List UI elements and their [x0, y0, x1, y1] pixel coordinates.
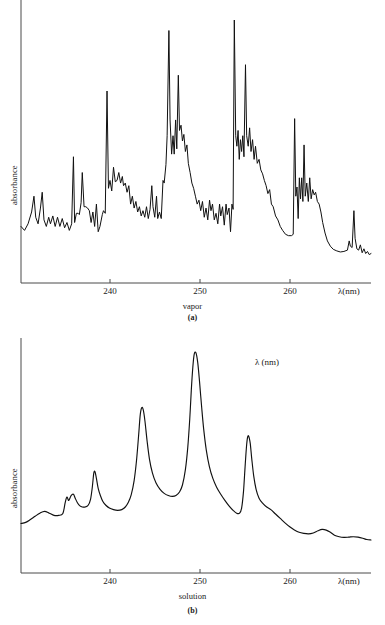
x-axis-label-b: λ(nm) — [338, 576, 360, 586]
x-axis-label-a: λ(nm) — [338, 286, 360, 296]
figure-panel-b: absorbance λ (nm) 240 250 260 λ(nm) solu… — [0, 318, 385, 625]
vapor-spectrum-chart — [0, 0, 385, 300]
panel-caption-b: (b) — [0, 606, 385, 615]
solution-spectrum-curve — [21, 352, 371, 540]
x-tick-label-a-250: 250 — [186, 286, 214, 296]
x-tick-label-a-240: 240 — [96, 286, 124, 296]
lambda-nm-annotation: λ (nm) — [255, 357, 279, 367]
x-tick-label-a-260: 260 — [276, 286, 304, 296]
panel-subcaption-a: vapor — [0, 301, 385, 311]
plot-area-solution: absorbance λ (nm) 240 250 260 λ(nm) solu… — [0, 318, 385, 590]
x-tick-label-b-260: 260 — [276, 576, 304, 586]
x-axis-ticks-b — [110, 569, 290, 573]
y-axis-label-b: absorbance — [9, 468, 19, 508]
x-tick-label-b-250: 250 — [186, 576, 214, 586]
x-tick-label-b-240: 240 — [96, 576, 124, 586]
figure-panel-a: absorbance 240 250 260 λ(nm) vapor (a) — [0, 0, 385, 318]
vapor-spectrum-curve — [21, 20, 371, 255]
plot-area-vapor: absorbance 240 250 260 λ(nm) vapor — [0, 0, 385, 300]
solution-spectrum-chart — [0, 318, 385, 590]
y-axis-label-a: absorbance — [9, 165, 19, 205]
x-axis-ticks-a — [110, 279, 290, 283]
panel-subcaption-b: solution — [0, 591, 385, 601]
